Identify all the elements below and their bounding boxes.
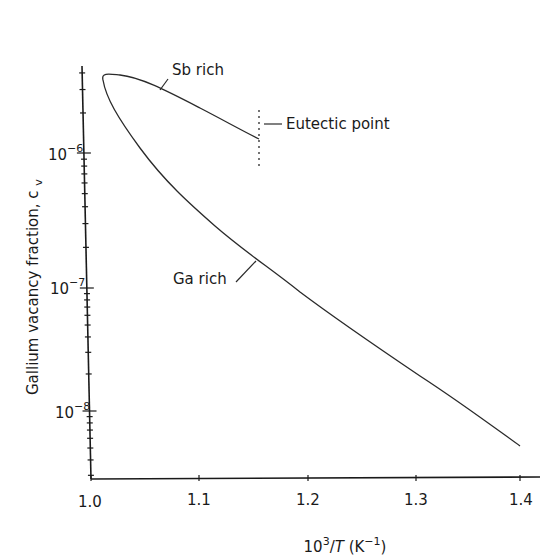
y-tick-label: 10−7 (50, 276, 85, 298)
x-tick-label: 1.2 (296, 491, 320, 509)
x-tick-labels: 1.0 1.1 1.2 1.3 1.4 (78, 491, 533, 511)
y-tick-label: 10−6 (48, 142, 83, 164)
ga-rich-curve (103, 80, 520, 446)
sb-rich-label: Sb rich (172, 61, 224, 79)
x-tick-label: 1.3 (404, 491, 428, 509)
chart: 1.0 1.1 1.2 1.3 1.4 10−6 10−7 10−8 103/T… (0, 0, 557, 560)
eutectic-label: Eutectic point (286, 115, 390, 133)
x-tick-label: 1.0 (78, 493, 102, 511)
x-tick-label: 1.4 (509, 491, 533, 509)
y-axis-title: Gallium vacancy fraction, c v (24, 179, 45, 395)
sb-rich-leader (160, 79, 168, 90)
ga-rich-label: Ga rich (173, 270, 227, 288)
x-axis (91, 477, 540, 479)
y-tick-label: 10−8 (55, 400, 90, 422)
ga-rich-leader (236, 261, 256, 282)
x-tick-label: 1.1 (187, 491, 211, 509)
x-axis-title: 103/T (K−1) (304, 535, 387, 556)
